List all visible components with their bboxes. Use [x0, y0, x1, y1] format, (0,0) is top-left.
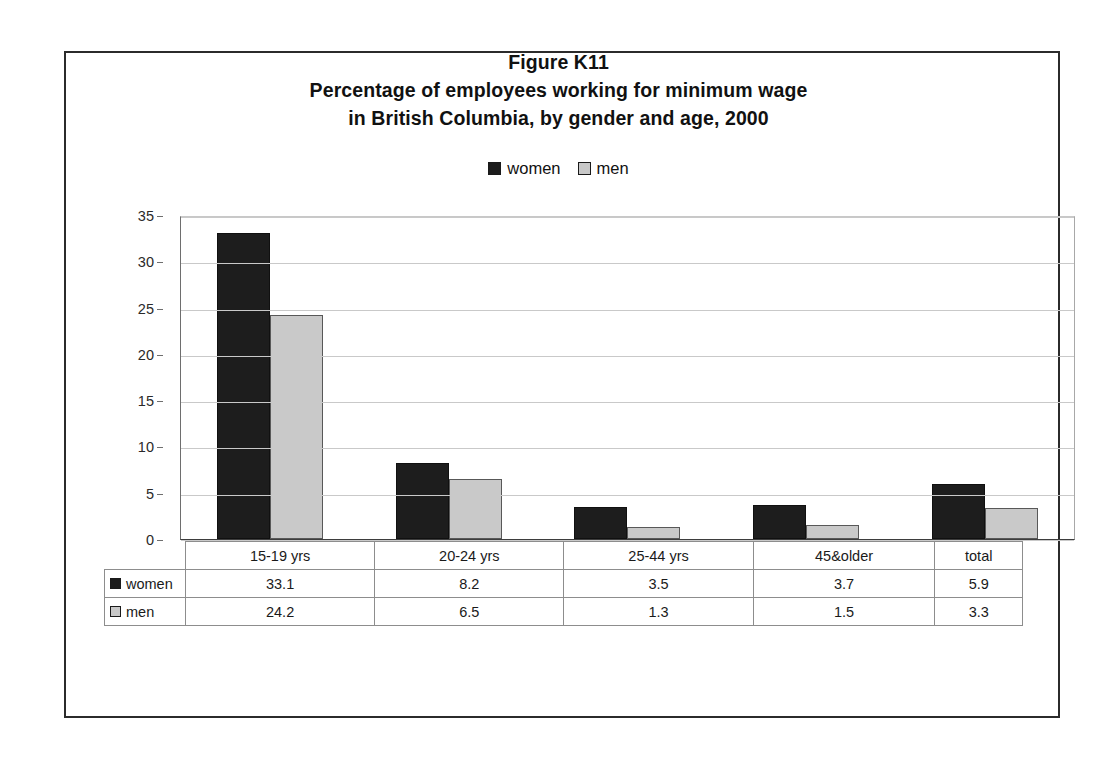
y-axis-tick-label: 35: [138, 208, 154, 224]
bar-group: [181, 217, 360, 539]
table-body: 15-19 yrs20-24 yrs25-44 yrs45&oldertotal…: [105, 542, 1023, 626]
chart-plot-wrapper: 05101520253035: [116, 216, 1075, 540]
table-data-cell: 3.3: [935, 598, 1023, 626]
y-axis-tick-label: 5: [146, 486, 154, 502]
table-data-cell: 8.2: [375, 570, 564, 598]
table-header-cell: 45&older: [753, 542, 935, 570]
y-axis-tick-label: 25: [138, 301, 154, 317]
table-row-label-women: women: [105, 570, 186, 598]
gridline: [181, 448, 1074, 449]
filled-square-icon: [578, 162, 591, 175]
row-label-text: women: [126, 576, 173, 592]
gridline: [181, 263, 1074, 264]
table-data-cell: 1.3: [564, 598, 753, 626]
table-data-cell: 1.5: [753, 598, 935, 626]
table-header-cell: 15-19 yrs: [186, 542, 375, 570]
bar-men-25-44-yrs: [627, 527, 680, 539]
table-row: men24.26.51.31.53.3: [105, 598, 1023, 626]
table-header-cell: 20-24 yrs: [375, 542, 564, 570]
bar-men-20-24-yrs: [449, 479, 502, 539]
figure-title-line-2: in British Columbia, by gender and age, …: [0, 104, 1117, 132]
gridline: [181, 310, 1074, 311]
row-label-text: men: [126, 604, 154, 620]
table-data-cell: 33.1: [186, 570, 375, 598]
bar-group: [895, 217, 1074, 539]
gridline: [181, 402, 1074, 403]
bars-layer: [181, 217, 1074, 539]
legend-label-men: men: [597, 159, 629, 178]
y-axis-tick-label: 10: [138, 439, 154, 455]
row-label-inner: women: [110, 576, 185, 592]
plot-area: [180, 216, 1075, 540]
bar-men-15-19-yrs: [270, 315, 323, 539]
table-data-cell: 6.5: [375, 598, 564, 626]
table-row-label-men: men: [105, 598, 186, 626]
y-axis-tick-label: 20: [138, 347, 154, 363]
chart-legend: women men: [0, 159, 1117, 178]
table-data-cell: 5.9: [935, 570, 1023, 598]
bar-group: [717, 217, 896, 539]
bar-women-20-24-yrs: [396, 463, 449, 539]
table-header-cell: 25-44 yrs: [564, 542, 753, 570]
y-axis: 05101520253035: [116, 216, 164, 540]
filled-square-icon: [488, 162, 501, 175]
row-label-inner: men: [110, 604, 185, 620]
y-axis-tick-label: 30: [138, 254, 154, 270]
figure-number: Figure K11: [0, 48, 1117, 76]
table-header-row: 15-19 yrs20-24 yrs25-44 yrs45&oldertotal: [105, 542, 1023, 570]
table-data-cell: 24.2: [186, 598, 375, 626]
bar-men-45-older: [806, 525, 859, 539]
gridline: [181, 217, 1074, 218]
gridline: [181, 356, 1074, 357]
bar-women-25-44-yrs: [574, 507, 627, 539]
legend-item-men: men: [578, 159, 629, 178]
legend-label-women: women: [507, 159, 560, 178]
bar-group: [538, 217, 717, 539]
table-header-cell: total: [935, 542, 1023, 570]
filled-square-icon: [110, 606, 121, 617]
legend-item-women: women: [488, 159, 560, 178]
figure-title-line-1: Percentage of employees working for mini…: [0, 76, 1117, 104]
y-axis-tick-label: 15: [138, 393, 154, 409]
filled-square-icon: [110, 578, 121, 589]
bar-women-15-19-yrs: [217, 233, 270, 539]
bar-group: [360, 217, 539, 539]
chart-data-table: 15-19 yrs20-24 yrs25-44 yrs45&oldertotal…: [104, 541, 1023, 626]
table-row: women33.18.23.53.75.9: [105, 570, 1023, 598]
bar-men-total: [985, 508, 1038, 539]
table-corner-cell: [105, 542, 186, 570]
table-data-cell: 3.5: [564, 570, 753, 598]
bar-women-45-older: [753, 505, 806, 539]
bar-women-total: [932, 484, 985, 539]
gridline: [181, 495, 1074, 496]
table-data-cell: 3.7: [753, 570, 935, 598]
figure-title-block: Figure K11 Percentage of employees worki…: [0, 48, 1117, 132]
